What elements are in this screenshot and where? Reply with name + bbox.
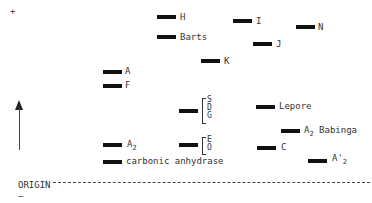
origin-line bbox=[53, 182, 370, 183]
positive-pole-sign: + bbox=[10, 6, 15, 16]
origin-label: ORIGIN bbox=[18, 180, 51, 190]
brace-icon bbox=[202, 137, 206, 155]
electrophoresis-diagram: + – ORIGIN H Barts I N J K A F Lepore bbox=[0, 0, 372, 203]
negative-pole-sign: – bbox=[18, 191, 23, 201]
brace-icon bbox=[202, 98, 206, 124]
